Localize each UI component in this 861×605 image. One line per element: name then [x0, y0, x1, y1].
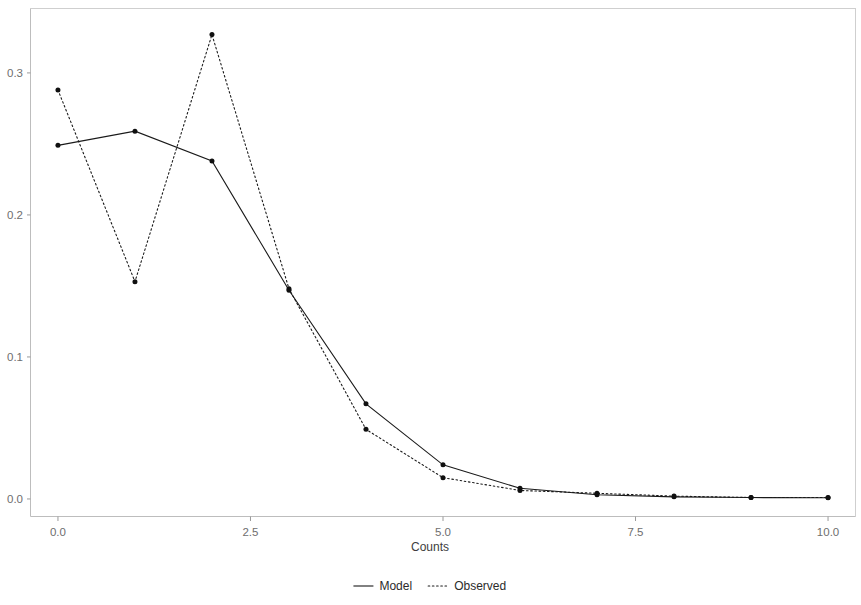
data-point-observed — [826, 495, 831, 500]
data-point-model — [132, 129, 137, 134]
data-point-observed — [749, 495, 754, 500]
x-tick-label: 7.5 — [628, 526, 644, 538]
y-tick-label: 0.0 — [7, 493, 23, 505]
legend-label-observed: Observed — [454, 579, 506, 593]
data-point-model — [55, 143, 60, 148]
line-chart: 0.00.10.20.3 0.02.55.07.510.0 Counts Mod… — [0, 0, 861, 605]
x-tick-label: 5.0 — [435, 526, 451, 538]
data-point-observed — [132, 279, 137, 284]
data-point-observed — [595, 491, 600, 496]
data-point-observed — [209, 32, 214, 37]
data-point-observed — [441, 475, 446, 480]
y-tick-label: 0.2 — [7, 209, 23, 221]
data-point-model — [363, 401, 368, 406]
x-tick-label: 0.0 — [50, 526, 66, 538]
chart-background — [0, 0, 861, 605]
data-point-model — [441, 462, 446, 467]
x-tick-label: 2.5 — [242, 526, 258, 538]
data-point-observed — [363, 427, 368, 432]
legend-label-model: Model — [379, 579, 412, 593]
data-point-observed — [672, 494, 677, 499]
chart-container: 0.00.10.20.3 0.02.55.07.510.0 Counts Mod… — [0, 0, 861, 605]
y-tick-label: 0.1 — [7, 351, 23, 363]
data-point-observed — [518, 488, 523, 493]
x-axis-title: Counts — [411, 540, 449, 554]
data-point-observed — [55, 87, 60, 92]
x-tick-label: 10.0 — [817, 526, 839, 538]
data-point-model — [209, 158, 214, 163]
data-point-observed — [286, 286, 291, 291]
y-tick-label: 0.3 — [7, 67, 23, 79]
